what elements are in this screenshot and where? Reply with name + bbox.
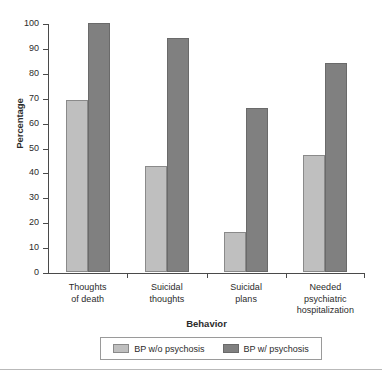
- x-axis-category-label-line: psychiatric: [280, 294, 371, 306]
- legend-item: BP w/o psychosis: [113, 344, 204, 354]
- x-axis-separator-tick: [127, 273, 128, 278]
- y-axis-tick: 0: [43, 273, 48, 274]
- y-axis-tick: 10: [43, 248, 48, 249]
- x-axis-separator-tick: [286, 273, 287, 278]
- bar-chart-figure: Percentage 1009080706050403020100 Though…: [0, 0, 382, 377]
- bar: [167, 38, 189, 272]
- y-axis-tick: 30: [43, 198, 48, 199]
- y-axis-tick: 90: [43, 49, 48, 50]
- y-axis-tick-label: 0: [34, 267, 39, 277]
- y-axis-tick-label: 100: [24, 18, 39, 28]
- plot-area: 1009080706050403020100 Thoughtsof deathS…: [48, 24, 365, 273]
- x-axis-category-label: Neededpsychiatrichospitalization: [280, 282, 371, 317]
- page-edge-line: [0, 369, 382, 370]
- x-axis-category-label-line: Thoughts: [42, 282, 133, 294]
- y-axis-tick-label: 40: [29, 167, 39, 177]
- y-axis-tick-label: 10: [29, 242, 39, 252]
- y-axis-tick-label: 20: [29, 217, 39, 227]
- legend-item: BP w/ psychosis: [223, 344, 309, 354]
- bar: [88, 23, 110, 272]
- x-axis-category-label-line: plans: [201, 294, 292, 306]
- bar: [303, 155, 325, 272]
- x-axis-category-label-line: thoughts: [121, 294, 212, 306]
- y-axis-tick: 70: [43, 99, 48, 100]
- y-axis-tick: 100: [43, 24, 48, 25]
- y-axis-tick-label: 30: [29, 192, 39, 202]
- x-axis-category-label-line: Suicidal: [201, 282, 292, 294]
- y-axis-tick-label: 70: [29, 93, 39, 103]
- legend-swatch: [113, 344, 129, 353]
- x-axis-category-label-line: Needed: [280, 282, 371, 294]
- bar: [66, 100, 88, 272]
- x-axis-category-label-line: hospitalization: [280, 305, 371, 317]
- x-axis-category-label: Thoughtsof death: [42, 282, 133, 305]
- y-axis-title: Percentage: [14, 79, 25, 169]
- bar: [246, 108, 268, 272]
- x-axis-separator-tick: [207, 273, 208, 278]
- x-axis-category-label-line: Suicidal: [121, 282, 212, 294]
- x-axis-category-label-line: of death: [42, 294, 133, 306]
- legend-label: BP w/o psychosis: [134, 344, 204, 354]
- y-axis-tick: 40: [43, 173, 48, 174]
- y-axis-tick: 80: [43, 74, 48, 75]
- bar: [224, 232, 246, 272]
- x-axis-category-label: Suicidalthoughts: [121, 282, 212, 305]
- y-axis-line: [48, 24, 49, 274]
- y-axis-tick: 50: [43, 149, 48, 150]
- bar: [145, 166, 167, 272]
- y-axis-tick: 20: [43, 223, 48, 224]
- y-axis-tick-label: 80: [29, 68, 39, 78]
- y-axis-tick-label: 90: [29, 43, 39, 53]
- legend-swatch: [223, 344, 239, 353]
- chart-legend: BP w/o psychosisBP w/ psychosis: [100, 337, 322, 360]
- y-axis-tick: 60: [43, 124, 48, 125]
- x-axis-category-label: Suicidalplans: [201, 282, 292, 305]
- x-axis-separator-tick: [364, 273, 365, 278]
- bar: [325, 63, 347, 272]
- y-axis-tick-label: 60: [29, 118, 39, 128]
- y-axis-tick-label: 50: [29, 143, 39, 153]
- legend-label: BP w/ psychosis: [244, 344, 309, 354]
- x-axis-title: Behavior: [48, 318, 365, 329]
